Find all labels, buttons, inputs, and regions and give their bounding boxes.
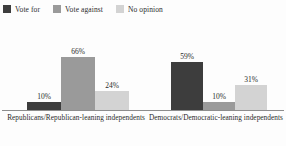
bar-vote-against bbox=[203, 102, 235, 110]
bar-value-label: 10% bbox=[212, 92, 226, 101]
bar-value-label: 59% bbox=[180, 52, 194, 61]
legend-item-no-opinion: No opinion bbox=[116, 5, 163, 14]
bar-slot-no-opinion: 24% bbox=[95, 18, 129, 110]
legend-item-vote-for: Vote for bbox=[3, 5, 40, 14]
legend-swatch-icon-vote-against bbox=[53, 5, 61, 13]
category-label-democrats: Democrats/Democratic-leaning independent… bbox=[148, 113, 284, 123]
bar-group-democrats: 59% 10% 31% bbox=[160, 18, 278, 110]
legend-label-no-opinion: No opinion bbox=[128, 5, 163, 14]
bar-value-label: 66% bbox=[71, 47, 85, 56]
x-axis-category-labels: Republicans/Republican-leaning independe… bbox=[0, 113, 286, 143]
legend-label-vote-for: Vote for bbox=[15, 5, 40, 14]
category-label-republicans: Republicans/Republican-leaning independe… bbox=[6, 113, 146, 123]
bar-slot-vote-against: 10% bbox=[203, 18, 235, 110]
legend-swatch-icon-no-opinion bbox=[116, 5, 124, 13]
legend-swatch-icon-vote-for bbox=[3, 5, 11, 13]
legend-item-vote-against: Vote against bbox=[53, 5, 103, 14]
bar-value-label: 10% bbox=[37, 92, 51, 101]
bar-vote-for bbox=[171, 62, 203, 110]
legend-label-vote-against: Vote against bbox=[65, 5, 103, 14]
bar-vote-for bbox=[27, 102, 61, 110]
bar-slot-vote-for: 59% bbox=[171, 18, 203, 110]
bar-value-label: 31% bbox=[244, 75, 258, 84]
bar-value-label: 24% bbox=[105, 81, 119, 90]
x-axis-baseline bbox=[2, 110, 284, 111]
bar-no-opinion bbox=[235, 85, 267, 110]
bar-slot-vote-against: 66% bbox=[61, 18, 95, 110]
bar-group-republicans: 10% 66% 24% bbox=[14, 18, 142, 110]
chart-legend: Vote for Vote against No opinion bbox=[3, 3, 283, 15]
bar-vote-against bbox=[61, 57, 95, 110]
bar-slot-no-opinion: 31% bbox=[235, 18, 267, 110]
bar-no-opinion bbox=[95, 91, 129, 110]
grouped-bar-chart: Vote for Vote against No opinion 10% 66%… bbox=[0, 0, 286, 146]
plot-area: 10% 66% 24% 59% 10% 31% bbox=[0, 18, 286, 110]
bar-slot-vote-for: 10% bbox=[27, 18, 61, 110]
